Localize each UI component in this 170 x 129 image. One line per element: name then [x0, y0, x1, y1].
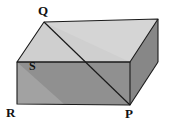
vertex-label-R: R: [6, 106, 15, 119]
vertex-label-S: S: [29, 60, 36, 72]
cuboid-figure: Q S R P: [0, 0, 170, 129]
vertex-label-P: P: [125, 107, 133, 120]
vertex-label-Q: Q: [38, 4, 48, 17]
cuboid-drawing: [0, 0, 170, 129]
